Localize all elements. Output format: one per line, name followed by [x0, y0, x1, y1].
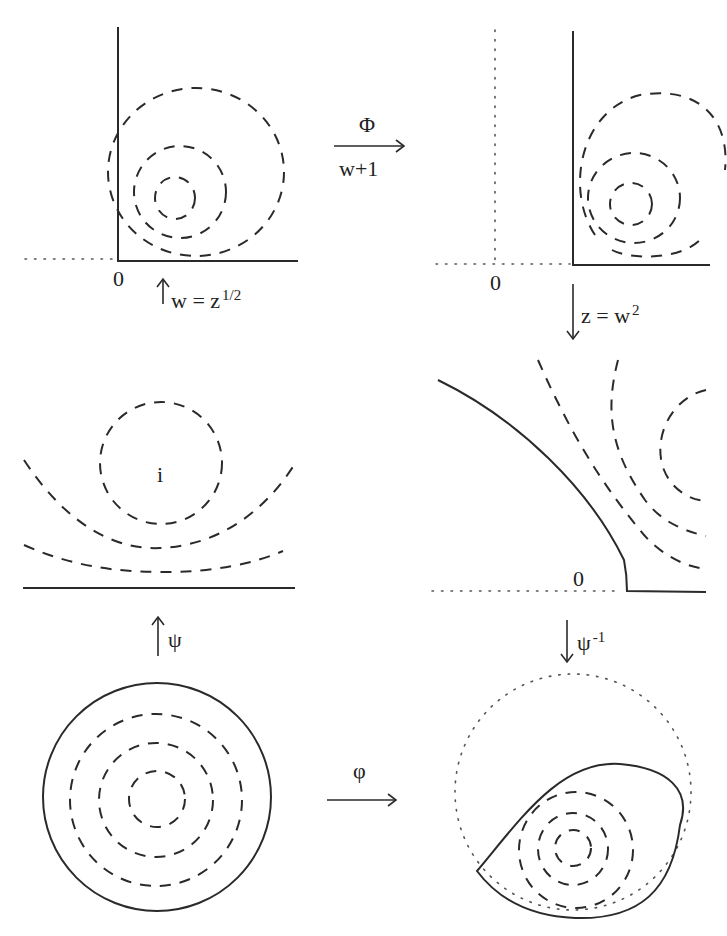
- arrow-sqrt: [157, 279, 169, 304]
- panel-bottom-left: [43, 683, 271, 911]
- origin-label-top-left: 0: [113, 268, 124, 290]
- sqrt-map-formula: w = z: [171, 288, 220, 313]
- panel-middle-right: [432, 360, 706, 592]
- dashed-curve-inner: [610, 183, 652, 225]
- varphi-map-label: φ: [353, 760, 366, 782]
- panel-top-left: [25, 27, 298, 261]
- arrow-psi: [152, 617, 164, 656]
- dashed-circle-outer: [70, 714, 242, 886]
- arrow-psi-inverse: [561, 620, 573, 662]
- dashed-curve-middle: [134, 146, 226, 238]
- origin-label-middle-right: 0: [573, 568, 584, 590]
- dashed-curve-outer: [580, 93, 726, 235]
- origin-label-top-right: 0: [490, 272, 501, 294]
- dashed-circle-inner: [129, 771, 185, 827]
- psi-map-label: ψ: [168, 629, 182, 651]
- image-region-boundary: [477, 764, 683, 918]
- dashed-circle-middle: [99, 743, 213, 857]
- phi-map-formula: w+1: [339, 158, 378, 180]
- sqrt-map-exponent: 1/2: [222, 287, 241, 303]
- point-label-i: i: [157, 464, 163, 486]
- dashed-curve-inner: [555, 830, 591, 866]
- dashed-curve-outer: [519, 792, 633, 908]
- psi-inverse-symbol: ψ: [577, 630, 591, 655]
- arrow-varphi: [327, 794, 396, 806]
- dashed-curve-middle: [588, 153, 680, 243]
- psi-inverse-exponent: -1: [593, 629, 606, 645]
- square-map-exponent: 2: [632, 302, 640, 318]
- psi-inverse-map-label: ψ-1: [577, 632, 605, 654]
- dashed-curve-2: [611, 360, 706, 536]
- dashed-curve-1: [538, 360, 700, 568]
- dashed-curve-inner: [155, 177, 195, 219]
- dashed-curve-3: [660, 390, 706, 501]
- sqrt-map-label: w = z1/2: [171, 290, 241, 312]
- arrow-square: [567, 284, 579, 339]
- arrow-phi: [334, 140, 404, 152]
- boundary-curve: [438, 380, 706, 592]
- square-map-formula: z = w: [581, 303, 630, 328]
- conformal-map-diagram: [0, 0, 727, 936]
- phi-map-label: Φ: [359, 114, 375, 136]
- panel-bottom-right: [455, 674, 691, 918]
- dashed-curve-middle: [538, 813, 608, 885]
- unit-disk-boundary: [43, 683, 271, 911]
- square-map-label: z = w2: [581, 305, 640, 327]
- panel-middle-left: [23, 402, 296, 588]
- panel-top-right: [436, 30, 726, 265]
- dashed-curve-outer: [108, 88, 284, 256]
